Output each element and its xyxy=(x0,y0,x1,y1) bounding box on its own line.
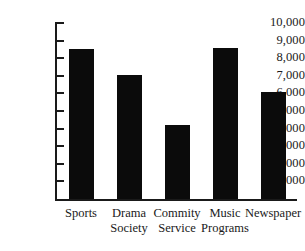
bar-chart: 1,0002,0003,0004,0005,0006,0007,0008,000… xyxy=(0,0,305,251)
x-axis-tick-label-line: Newspaper xyxy=(237,206,305,221)
bar xyxy=(117,75,142,199)
bar xyxy=(261,92,286,199)
bar xyxy=(213,48,238,199)
x-axis-tick-label-line: Programs xyxy=(189,221,261,236)
plot-area xyxy=(57,23,297,199)
x-axis-tick-label: Newspaper xyxy=(237,206,305,221)
bar xyxy=(165,125,190,199)
x-axis-line xyxy=(55,199,297,201)
bar xyxy=(69,49,94,199)
